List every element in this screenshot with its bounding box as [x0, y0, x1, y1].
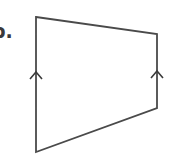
trapezoid-figure: [0, 0, 174, 162]
trapezoid-outline: [36, 17, 157, 152]
